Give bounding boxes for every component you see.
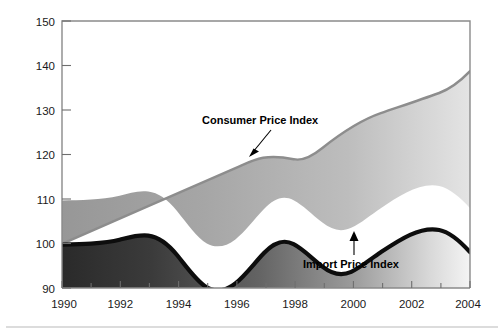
x-axis-tick-label: 1998 [282, 298, 308, 310]
y-axis-tick-label: 130 [36, 105, 55, 117]
x-axis-tick-label: 1990 [51, 298, 77, 310]
y-axis-labels: 150 140 130 120 110 100 90 [36, 16, 55, 295]
x-axis-tick-label: 2004 [455, 298, 481, 310]
x-axis-tick-label: 1996 [224, 298, 250, 310]
y-axis-tick-label: 150 [36, 16, 55, 28]
consumer-price-index-annotation-label: Consumer Price Index [202, 114, 319, 126]
y-axis-tick-label: 140 [36, 60, 55, 72]
import-price-index-annotation-label: Import Price Index [303, 258, 400, 270]
price-index-chart-figure: 150 140 130 120 110 100 90 [0, 0, 504, 332]
y-axis-tick-label: 120 [36, 149, 55, 161]
chart-canvas: 150 140 130 120 110 100 90 [0, 0, 504, 332]
x-axis-tick-label: 2000 [341, 298, 367, 310]
x-axis-tick-label: 2002 [399, 298, 425, 310]
y-axis-tick-label: 110 [37, 194, 55, 206]
y-axis-tick-label: 100 [36, 238, 55, 250]
y-axis-tick-label: 90 [42, 283, 55, 295]
x-axis-tick-label: 1994 [166, 298, 192, 310]
x-axis-tick-label: 1992 [108, 298, 134, 310]
x-axis-labels: 1990 1992 1994 1996 1998 2000 2002 2004 [51, 298, 481, 310]
